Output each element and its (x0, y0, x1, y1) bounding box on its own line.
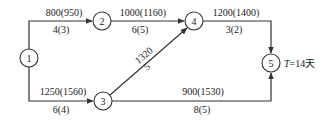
edge-3-4: 1320 5 (110, 28, 187, 95)
network-diagram: 800(950) 4(3) 1000(1160) 6(5) 1200(1400)… (0, 0, 332, 120)
edge-4-5-cost: 1200(1400) (213, 7, 260, 19)
edge-2-4-cost: 1000(1160) (120, 7, 166, 19)
node-5-label: 5 (269, 58, 274, 69)
edge-2-4: 1000(1160) 6(5) (111, 7, 184, 36)
node-1: 1 (20, 49, 38, 67)
node-3: 3 (94, 92, 112, 110)
node-5: 5 (262, 54, 280, 72)
edge-1-2-cost: 800(950) (46, 7, 83, 19)
edge-1-3-cost: 1250(1560) (40, 86, 87, 98)
edge-1-2: 800(950) 4(3) (29, 7, 92, 49)
edge-4-5: 1200(1400) 3(2) (203, 7, 271, 53)
edge-1-3-duration: 6(4) (53, 104, 70, 116)
node-1-label: 1 (27, 53, 32, 64)
node-2-label: 2 (100, 16, 105, 27)
node-2: 2 (93, 12, 111, 30)
edge-3-5-duration: 8(5) (194, 104, 211, 116)
annotation-text: =14天 (290, 58, 316, 69)
total-duration-annotation: T=14天 (284, 58, 315, 69)
node-3-label: 3 (101, 96, 106, 107)
edge-1-2-duration: 4(3) (53, 24, 70, 36)
edge-1-3: 1250(1560) 6(4) (29, 67, 93, 116)
edge-3-5-cost: 900(1530) (182, 86, 224, 98)
edge-4-5-duration: 3(2) (226, 24, 243, 36)
edge-3-5: 900(1530) 8(5) (112, 73, 271, 116)
edge-2-4-duration: 6(5) (132, 24, 149, 36)
node-4-label: 4 (192, 16, 197, 27)
node-4: 4 (185, 12, 203, 30)
